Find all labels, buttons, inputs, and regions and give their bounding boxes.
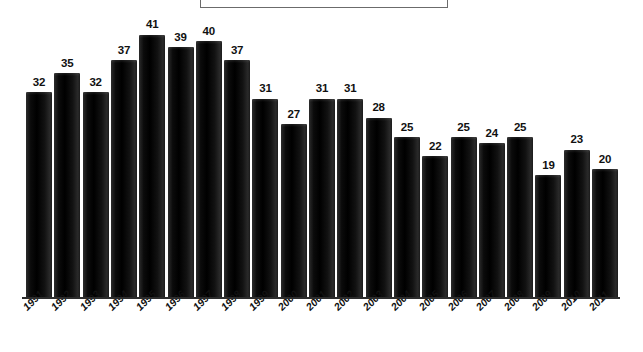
bar-group: 31 [309,99,335,297]
bar-group: 27 [281,124,307,297]
bar-group: 25 [394,137,420,297]
bar-group: 20 [592,169,618,297]
bar[interactable] [451,137,477,297]
bar-group: 22 [422,156,448,297]
bar-value-label: 31 [328,83,372,95]
x-axis-label: 2008 [502,288,526,312]
bar[interactable] [168,47,194,297]
x-axis-label: 1995 [134,288,158,312]
bar-value-label: 40 [187,26,231,38]
bar[interactable] [111,60,137,297]
bar-group: 40 [196,41,222,297]
x-axis-label: 2004 [389,288,413,312]
bar[interactable] [535,175,561,297]
bar[interactable] [592,169,618,297]
bar-group: 32 [83,92,109,297]
x-axis-label: 2007 [474,288,498,312]
x-axis-label: 1991 [21,288,45,312]
x-axis-label: 1998 [219,288,243,312]
bar[interactable] [26,92,52,297]
x-axis-label: 1996 [163,288,187,312]
x-axis-label: 2003 [361,288,385,312]
bar[interactable] [479,143,505,297]
x-axis-label: 2001 [304,288,328,312]
x-axis-label: 1994 [106,288,130,312]
bar-value-label: 23 [555,134,599,146]
bar-group: 39 [168,47,194,297]
bar[interactable] [83,92,109,297]
plot-area: 3219913519923219933719944119953919964019… [0,0,643,352]
bar-value-label: 28 [357,102,401,114]
bar[interactable] [281,124,307,297]
bar[interactable] [394,137,420,297]
bar-value-label: 20 [583,154,627,166]
bar[interactable] [224,60,250,297]
x-axis-label: 2010 [559,288,583,312]
bar-group: 35 [54,73,80,297]
x-axis-label: 1997 [191,288,215,312]
bar[interactable] [139,35,165,297]
x-axis-label: 2011 [587,289,610,312]
x-axis-label: 2006 [446,288,470,312]
bar[interactable] [366,118,392,297]
bar-value-label: 25 [385,122,429,134]
x-axis-label: 1992 [49,288,73,312]
x-axis-label: 1999 [247,288,271,312]
bar-value-label: 25 [498,122,542,134]
bar-value-label: 31 [243,83,287,95]
bar[interactable] [337,99,363,297]
bar[interactable] [196,41,222,297]
bar-group: 25 [451,137,477,297]
bar-group: 28 [366,118,392,297]
bar-group: 31 [337,99,363,297]
bar[interactable] [422,156,448,297]
bar-group: 37 [111,60,137,297]
bar-group: 19 [535,175,561,297]
bar[interactable] [309,99,335,297]
x-axis-label: 2005 [417,288,441,312]
bar-group: 41 [139,35,165,297]
x-axis-label: 1993 [78,288,102,312]
bar-value-label: 35 [45,58,89,70]
x-axis-label: 2009 [530,288,554,312]
bar-value-label: 37 [215,45,259,57]
chart-canvas: 3219913519923219933719944119953919964019… [0,0,643,352]
bar-group: 37 [224,60,250,297]
x-axis-line [22,297,620,299]
bar-group: 32 [26,92,52,297]
bar-group: 31 [252,99,278,297]
bar[interactable] [564,150,590,297]
bar-group: 23 [564,150,590,297]
bar-group: 24 [479,143,505,297]
bar[interactable] [54,73,80,297]
x-axis-label: 2000 [276,288,300,312]
x-axis-label: 2002 [332,288,356,312]
bar-value-label: 41 [130,19,174,31]
bar[interactable] [252,99,278,297]
